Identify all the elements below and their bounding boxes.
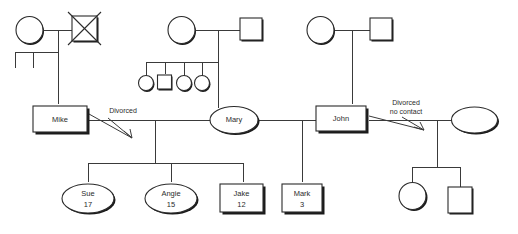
johns-partner-ellipse[interactable]: [452, 107, 498, 133]
johns-father-square[interactable]: [370, 18, 392, 40]
marys-sibling-1-circle[interactable]: [139, 76, 154, 91]
person-johns-partner[interactable]: [452, 107, 500, 135]
marys-mother-circle[interactable]: [168, 17, 195, 44]
person-john-partner-child-2[interactable]: [448, 187, 474, 215]
jake-age: 12: [237, 200, 245, 209]
person-angie[interactable]: Angie 15: [145, 184, 199, 215]
divorce-arrowhead-1: [124, 129, 132, 138]
divorce-marker-mike-mary: [89, 114, 132, 138]
mikes-mother-circle[interactable]: [16, 17, 43, 44]
divorce-marker-john-partner: [369, 116, 424, 130]
generation2-couple-lines: [88, 120, 460, 187]
person-mary[interactable]: Mary: [210, 107, 260, 136]
angie-age: 15: [167, 200, 175, 209]
divorce-slash-1a: [89, 114, 132, 138]
genogram-svg: Mike Mary John Sue 17 Angie 15: [0, 0, 518, 234]
angie-name: Angie: [161, 189, 180, 198]
person-jake[interactable]: Jake 12: [220, 184, 266, 215]
john-label: John: [333, 114, 349, 123]
divorced-label-2-line1: Divorced: [392, 99, 420, 106]
couple-mikes-parents: [15, 12, 101, 104]
jp-child1-circle[interactable]: [399, 183, 426, 210]
johns-mother-circle[interactable]: [307, 17, 334, 44]
annotation-divorced-john-partner: Divorced no contact: [390, 99, 422, 115]
person-mike[interactable]: Mike: [33, 106, 90, 135]
sue-name: Sue: [81, 189, 94, 198]
marys-sibling-2-square[interactable]: [158, 75, 172, 89]
mark-name: Mark: [294, 189, 311, 198]
person-john[interactable]: John: [316, 106, 369, 134]
mark-age: 3: [300, 200, 304, 209]
sue-age: 17: [84, 200, 92, 209]
person-mark[interactable]: Mark 3: [282, 184, 325, 215]
divorced-label-2-line2: no contact: [390, 108, 422, 115]
couple-marys-parents: [139, 17, 264, 109]
jp-child2-square[interactable]: [448, 187, 472, 213]
marys-sibling-3-circle[interactable]: [177, 76, 192, 91]
mary-label: Mary: [226, 115, 243, 124]
marys-sibling-4-circle[interactable]: [195, 76, 210, 91]
genogram-canvas: Mike Mary John Sue 17 Angie 15: [0, 0, 518, 234]
person-sue[interactable]: Sue 17: [62, 184, 116, 215]
annotation-divorced-mike-mary: Divorced: [109, 107, 137, 114]
divorced-label-1: Divorced: [109, 107, 137, 114]
person-john-partner-child-1[interactable]: [399, 183, 428, 212]
jake-name: Jake: [234, 189, 250, 198]
couple-johns-parents: [307, 17, 394, 105]
mike-label: Mike: [52, 115, 68, 124]
marys-father-square[interactable]: [240, 18, 262, 40]
